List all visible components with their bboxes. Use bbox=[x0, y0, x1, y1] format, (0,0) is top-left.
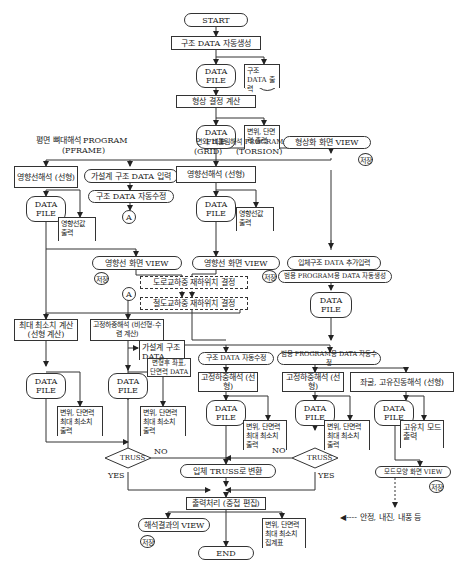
data-file-6: DATA FILE bbox=[26, 373, 66, 399]
fixed-load-nonlinear: 고정하중해석 (비선형-수렴 계산) bbox=[90, 319, 164, 341]
influence-output-mid: 영향선값 출력 bbox=[236, 207, 274, 231]
auto-fix-terminal: 구조 DATA 자동수정 bbox=[88, 190, 174, 203]
torsion-code: (TORSION) bbox=[236, 147, 282, 156]
save-icon: 저장 bbox=[94, 272, 109, 285]
maxmin-calc-step: 최대 최소치 계산 (선형 계산) bbox=[14, 319, 78, 341]
grid-code: (GRID) bbox=[194, 147, 222, 156]
data-file-1: DATA FILE bbox=[196, 64, 236, 88]
pframe-code: (PFRAME) bbox=[62, 146, 105, 155]
deformed-coords-data: 변형후 좌표, 단면력 DATA bbox=[147, 358, 191, 377]
mode-shape-view: 모드모양 화면 VIEW bbox=[375, 466, 451, 478]
maxmin-output-4: 변위, 단면력 최대 최소치 출력 bbox=[324, 420, 370, 450]
influence-view-left: 영향선 화면 VIEW bbox=[92, 256, 182, 270]
influence-view-mid: 영향선 화면 VIEW bbox=[192, 256, 280, 270]
gen-program-data-fix: 범용 PROGRAM용 DATA 자동수정 bbox=[277, 352, 381, 365]
save-icon: 저장 bbox=[262, 270, 277, 283]
shape-view-terminal: 형상화 화면 VIEW bbox=[283, 136, 371, 149]
struct-data-output-doc: 구조 DATA 출력 bbox=[244, 64, 280, 88]
auto-generate-step: 구조 DATA 자동생성 bbox=[171, 36, 261, 50]
data-file-5: DATA FILE bbox=[310, 292, 352, 318]
no-label-left: NO bbox=[154, 447, 168, 456]
yes-label-left: YES bbox=[108, 471, 125, 480]
assume-input-terminal: 가설계 구조 DATA 입력 bbox=[84, 169, 178, 183]
save-icon: 저장 bbox=[358, 153, 373, 166]
buckling-eigen-analysis: 좌굴, 고유진동해석 (선형) bbox=[350, 372, 454, 392]
maxmin-output-1: 변위, 단면력 최대 최소치 출력 bbox=[57, 406, 103, 436]
no-label-right: NO bbox=[272, 446, 286, 455]
shape-calc-step: 형상 결정 계산 bbox=[176, 95, 256, 108]
connector-a-2: A bbox=[122, 287, 136, 301]
assume-data-doc: 가설계 구조 DATA bbox=[139, 340, 185, 360]
maxmin-summary-doc: 변위, 단면력 최대 최소치 집계표 bbox=[262, 518, 306, 548]
connector-a-1: A bbox=[122, 210, 136, 224]
result-view-terminal: 해석결과의 VIEW bbox=[138, 518, 210, 532]
truss-decision-right: TRUSS bbox=[307, 454, 332, 463]
maxmin-output-2: 변위, 단면력 최대 최소치 출력 bbox=[140, 406, 186, 436]
grid-title: 면외, 비틀림해석 PROGRAM bbox=[196, 138, 283, 147]
eigen-mode-output: 고유치 모드 출력 bbox=[400, 420, 444, 448]
convert-3d-truss: 입체 TRUSS로 변환 bbox=[180, 464, 276, 478]
data-file-4: DATA FILE bbox=[196, 196, 236, 222]
fixed-load-linear-1: 고정하중해석 (선형) bbox=[198, 372, 258, 392]
data-file-8: DATA FILE bbox=[206, 400, 246, 426]
yes-label-right: YES bbox=[318, 471, 335, 480]
save-icon: 저장 bbox=[429, 480, 444, 493]
stability-legend: ◀---- 안정, 내진, 내풍 등 bbox=[340, 513, 421, 522]
rail-load-position: 철도교하중 재하위치 결정 bbox=[140, 297, 248, 310]
output-processing: 출력처리 (중첩 편집) bbox=[186, 497, 266, 510]
end-terminal: END bbox=[198, 546, 254, 560]
influence-analysis-left: 영향선해석 (선형) bbox=[14, 166, 78, 188]
start-terminal: START bbox=[184, 13, 248, 27]
influence-output-left: 영향선값 출력 bbox=[58, 217, 96, 241]
pframe-title: 평면 뼈대해석 PROGRAM bbox=[36, 136, 127, 145]
influence-analysis-mid: 영향선해석 (선형) bbox=[176, 166, 256, 183]
data-file-7: DATA FILE bbox=[108, 373, 148, 399]
fixed-load-linear-2: 고정하중해석 (선형) bbox=[282, 372, 344, 392]
auto-fix-terminal-2: 구조 DATA 자동수정 bbox=[198, 352, 274, 365]
save-icon: 저장 bbox=[140, 535, 155, 548]
solid-data-input: 입체구조 DATA 추가입력 bbox=[287, 256, 381, 270]
gen-program-data-gen: 범용 PROGRAM용 DATA 자동생성 bbox=[278, 270, 392, 283]
truss-decision-left: TRUSS bbox=[120, 454, 145, 463]
road-load-position: 도로교하중 재하위치 결정 bbox=[140, 276, 248, 289]
